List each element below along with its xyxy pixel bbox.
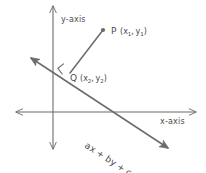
segment-pq bbox=[70, 30, 103, 73]
point-p-coordinates: (x1,y1) bbox=[120, 27, 147, 37]
point-p-letter: P bbox=[111, 26, 117, 36]
p-comma: , bbox=[131, 27, 134, 36]
point-p-dot bbox=[101, 28, 105, 32]
figure-canvas: y-axis x-axis P (x1,y1) Q (x2,y2) ax+by+… bbox=[0, 0, 206, 173]
line-equation: ax+by+c=0 bbox=[83, 140, 149, 173]
line-equation-group: ax+by+c=0 bbox=[83, 140, 149, 173]
right-angle-marker bbox=[58, 64, 64, 74]
point-q-label: Q bbox=[70, 73, 77, 83]
target-line bbox=[31, 58, 168, 148]
point-q-coordinates: (x2,y2) bbox=[80, 74, 107, 84]
point-q-letter: Q bbox=[70, 73, 77, 83]
y-axis-label: y-axis bbox=[61, 15, 86, 24]
p-paren-close: ) bbox=[144, 27, 147, 36]
point-p-label: P bbox=[111, 26, 117, 36]
q-paren-close: ) bbox=[104, 74, 107, 83]
q-comma: , bbox=[91, 74, 94, 83]
x-axis-label: x-axis bbox=[160, 117, 185, 126]
geometry-figure: y-axis x-axis P (x1,y1) Q (x2,y2) ax+by+… bbox=[0, 0, 206, 173]
